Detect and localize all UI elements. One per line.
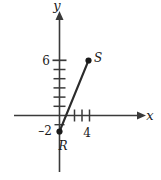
plot-background (0, 0, 161, 180)
y-tick-label-6: 6 (42, 54, 50, 68)
coordinate-plane-figure: y x 6 –2 4 R S (0, 0, 161, 180)
coordinate-plot: y x 6 –2 4 R S (0, 0, 161, 180)
x-tick-label-4: 4 (83, 126, 91, 140)
point-r-dot[interactable] (56, 128, 62, 134)
point-s-dot[interactable] (85, 57, 91, 63)
point-r-label: R (57, 139, 67, 153)
x-axis-label: x (146, 108, 154, 123)
y-axis-label: y (52, 0, 61, 13)
point-s-label: S (94, 51, 102, 65)
y-tick-label-minus-2: –2 (38, 124, 52, 138)
